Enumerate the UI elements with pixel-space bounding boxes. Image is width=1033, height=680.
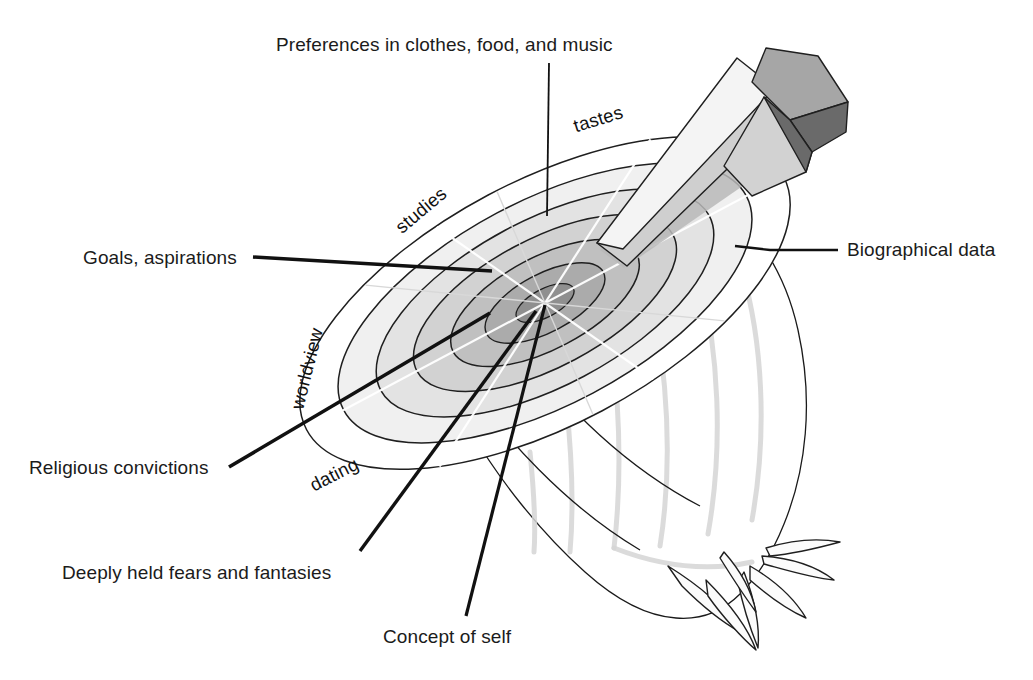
root-tendril: [762, 556, 834, 580]
callout-label-biographical: Biographical data: [847, 239, 996, 260]
onion-roots-group: [668, 540, 840, 650]
callout-label-preferences: Preferences in clothes, food, and music: [276, 34, 613, 55]
onion-model-diagram: tastes studies worldview dating Preferen…: [0, 0, 1033, 680]
root-tendril: [766, 540, 840, 556]
callout-label-religious: Religious convictions: [29, 457, 209, 478]
callout-label-concept-of-self: Concept of self: [383, 626, 512, 647]
root-tendril: [750, 566, 806, 618]
callout-label-fears: Deeply held fears and fantasies: [62, 562, 331, 583]
callout-label-goals: Goals, aspirations: [83, 247, 237, 268]
ring-label-dating: dating: [306, 453, 362, 495]
diagram-canvas: tastes studies worldview dating Preferen…: [0, 0, 1033, 680]
ring-label-tastes: tastes: [571, 101, 625, 136]
